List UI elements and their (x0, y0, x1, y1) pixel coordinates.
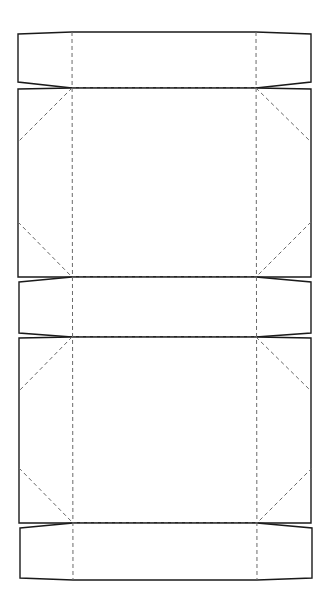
middle-flap (19, 277, 311, 337)
cut-lines (18, 32, 312, 580)
bottom-tuck-flap (20, 523, 312, 580)
bottom-panel (19, 337, 311, 523)
box-dieline-diagram (0, 0, 331, 607)
top-tuck-flap (18, 32, 311, 88)
top-panel (18, 88, 311, 277)
